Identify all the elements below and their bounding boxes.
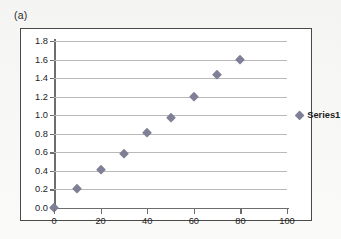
y-axis-tick-label: 0.6 — [35, 147, 48, 157]
x-axis-tick-label: 0 — [51, 216, 56, 226]
gridline — [54, 41, 287, 42]
y-axis-tick-labels: 0.00.20.40.60.81.01.21.41.61.8 — [21, 29, 48, 220]
plot-area — [54, 41, 287, 208]
data-point-marker — [165, 112, 175, 122]
gridline — [54, 208, 287, 209]
legend-label: Series1 — [307, 110, 340, 120]
x-axis-tick-label: 60 — [189, 216, 199, 226]
gridline — [54, 134, 287, 135]
gridline — [54, 152, 287, 153]
x-axis-tick-mark — [147, 209, 148, 214]
y-axis-tick-label: 1.8 — [35, 36, 48, 46]
gridline — [54, 60, 287, 61]
y-axis-tick-label: 0.2 — [35, 184, 48, 194]
data-point-marker — [95, 165, 105, 175]
y-axis-tick-label: 1.0 — [35, 110, 48, 120]
gridline — [54, 78, 287, 79]
y-axis-tick-label: 1.6 — [35, 55, 48, 65]
panel-label: (a) — [14, 9, 27, 21]
x-axis-tick-label: 80 — [235, 216, 245, 226]
y-axis-tick-label: 0.8 — [35, 129, 48, 139]
x-axis-tick-label: 20 — [95, 216, 105, 226]
y-axis-tick-label: 0.4 — [35, 166, 48, 176]
chart-legend: Series1 — [296, 110, 340, 120]
chart-figure: (a) 0.00.20.40.60.81.01.21.41.61.8 02040… — [0, 0, 341, 239]
y-axis-tick-label: 0.0 — [35, 203, 48, 213]
x-axis-tick-mark — [287, 209, 288, 214]
data-point-marker — [189, 91, 199, 101]
x-axis-tick-label: 100 — [279, 216, 295, 226]
data-point-marker — [72, 183, 82, 193]
legend-marker-icon — [295, 110, 305, 120]
x-axis-tick-mark — [54, 209, 55, 214]
x-axis-tick-mark — [240, 209, 241, 214]
gridline — [54, 189, 287, 190]
gridline — [54, 171, 287, 172]
gridline — [54, 97, 287, 98]
data-point-marker — [142, 128, 152, 138]
data-point-marker — [119, 148, 129, 158]
y-axis-tick-label: 1.2 — [35, 92, 48, 102]
y-axis-tick-label: 1.4 — [35, 73, 48, 83]
data-point-marker — [235, 54, 245, 64]
x-axis-tick-mark — [101, 209, 102, 214]
chart-frame: 0.00.20.40.60.81.01.21.41.61.8 020406080… — [20, 28, 312, 221]
x-axis-tick-label: 40 — [142, 216, 152, 226]
x-axis-tick-mark — [194, 209, 195, 214]
